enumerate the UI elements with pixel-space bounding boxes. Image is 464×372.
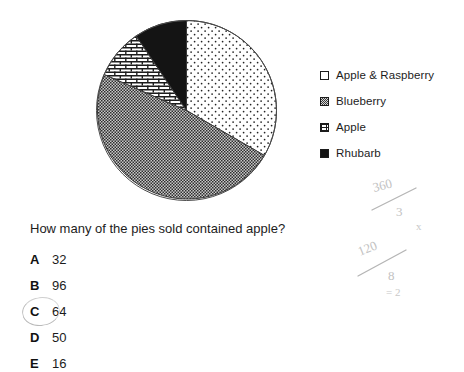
option-row-a[interactable]: A 32 bbox=[30, 246, 210, 272]
note-top-denominator: 3 bbox=[396, 204, 403, 219]
brick-swatch-icon bbox=[320, 123, 329, 132]
handwritten-note-top: 360 3 x bbox=[372, 176, 442, 234]
option-row-b[interactable]: B 96 bbox=[30, 272, 210, 298]
legend-item-rhubarb: Rhubarb bbox=[320, 140, 460, 166]
option-letter-d: D bbox=[30, 330, 52, 345]
legend-item-blueberry: Blueberry bbox=[320, 88, 460, 114]
option-row-d[interactable]: D 50 bbox=[30, 324, 210, 350]
legend-label-apple-raspberry: Apple & Raspberry bbox=[336, 69, 434, 82]
legend-label-blueberry: Blueberry bbox=[336, 95, 386, 108]
option-value-e: 16 bbox=[52, 356, 66, 371]
legend-item-apple-raspberry: Apple & Raspberry bbox=[320, 62, 460, 88]
chart-legend: Apple & Raspberry Blueberry Apple Rhubar… bbox=[320, 62, 460, 166]
option-letter-a: A bbox=[30, 252, 52, 267]
option-letter-c: C bbox=[30, 304, 52, 319]
note-bottom-numerator: 120 bbox=[356, 238, 380, 259]
option-row-e[interactable]: E 16 bbox=[30, 350, 210, 372]
option-letter-e: E bbox=[30, 356, 52, 371]
option-value-c: 64 bbox=[52, 304, 66, 319]
dotted-swatch-icon bbox=[320, 71, 329, 80]
note-top-numerator: 360 bbox=[371, 176, 394, 195]
note-top-mark: x bbox=[416, 220, 422, 232]
option-value-b: 96 bbox=[52, 278, 66, 293]
note-bottom-result: = 2 bbox=[386, 286, 400, 298]
legend-item-apple: Apple bbox=[320, 114, 460, 140]
checkered-swatch-icon bbox=[320, 97, 329, 106]
pie-chart bbox=[95, 19, 278, 202]
legend-label-rhubarb: Rhubarb bbox=[336, 147, 381, 160]
note-bottom-denominator: 8 bbox=[388, 268, 395, 283]
solid-black-swatch-icon bbox=[320, 149, 329, 158]
legend-label-apple: Apple bbox=[336, 121, 366, 134]
pie-chart-svg bbox=[95, 19, 278, 202]
answer-options-list: A 32 B 96 C 64 D 50 E 16 bbox=[30, 246, 210, 372]
option-value-a: 32 bbox=[52, 252, 66, 267]
handwritten-note-bottom: 120 8 = 2 bbox=[358, 236, 436, 298]
question-text: How many of the pies sold contained appl… bbox=[30, 220, 285, 237]
option-row-c[interactable]: C 64 bbox=[30, 298, 210, 324]
option-value-d: 50 bbox=[52, 330, 66, 345]
option-letter-b: B bbox=[30, 278, 52, 293]
